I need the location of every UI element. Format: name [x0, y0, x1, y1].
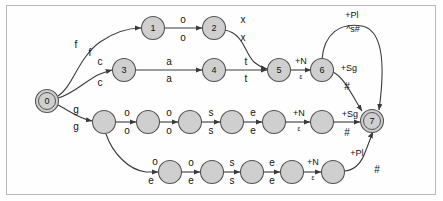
edge-0-3 [58, 70, 112, 98]
transition-input-symbol: t [245, 56, 248, 67]
transition-input-symbol: c [98, 56, 103, 67]
transition-input-symbol: +Pl [345, 10, 358, 20]
transition-label-t-0-1: ff [75, 39, 92, 58]
state-label: 6 [319, 65, 324, 75]
state-circle [137, 111, 160, 134]
state-label: 7 [369, 116, 374, 126]
fst-graph: 01234567 ffooxxccaatt+Nε+Pl^s#+Sg#ggoooo… [0, 0, 443, 201]
transition-label-t-6-7-pl: +Pl^s# [345, 10, 360, 34]
transition-output-symbol: e [250, 125, 256, 136]
state-node-unlabeled[interactable] [241, 161, 264, 184]
state-circle [179, 111, 202, 134]
transition-input-symbol: e [269, 157, 275, 168]
transition-input-symbol: +N [295, 56, 307, 66]
transition-input-symbol: +Pl [350, 148, 363, 158]
state-node-unlabeled[interactable] [201, 161, 224, 184]
transition-output-symbol: ε [300, 73, 303, 80]
transition-input-symbol: f [75, 39, 78, 50]
transition-output-symbol: e [188, 175, 194, 186]
transition-output-symbol: o [166, 125, 172, 136]
transition-input-symbol: o [152, 156, 158, 167]
transition-output-symbol: e [148, 175, 154, 186]
state-node-5[interactable]: 5 [268, 59, 291, 82]
transition-input-symbol: s [209, 107, 214, 118]
transition-output-symbol: f [89, 47, 92, 58]
transition-output-symbol: a [166, 73, 172, 84]
transition-input-symbol: e [250, 107, 256, 118]
state-circle [201, 161, 224, 184]
transition-input-symbol: g [73, 104, 79, 115]
transition-input-symbol: s [230, 157, 235, 168]
state-circle [322, 161, 345, 184]
state-node-unlabeled[interactable] [93, 111, 116, 134]
state-node-unlabeled[interactable] [263, 111, 286, 134]
transition-label-t-r1-s1: oe [148, 156, 158, 186]
edges-layer [58, 25, 382, 172]
state-node-1[interactable]: 1 [142, 17, 165, 40]
state-label: 2 [211, 23, 216, 33]
state-node-unlabeled[interactable] [179, 111, 202, 134]
transition-output-symbol: ^s# [346, 24, 360, 34]
transition-input-symbol: a [166, 56, 172, 67]
transition-input-symbol: o [188, 157, 194, 168]
transition-output-symbol: s [209, 125, 214, 136]
transition-input-symbol: +N [293, 108, 305, 118]
state-node-unlabeled[interactable] [137, 111, 160, 134]
state-node-unlabeled[interactable] [322, 161, 345, 184]
state-circle [241, 161, 264, 184]
transition-output-symbol: # [374, 164, 380, 175]
transition-output-symbol: e [269, 175, 275, 186]
transition-output-symbol: x [241, 32, 246, 43]
transition-output-symbol: t [245, 73, 248, 84]
state-label: 0 [44, 96, 49, 106]
transition-output-symbol: o [180, 32, 186, 43]
transition-input-symbol: o [124, 107, 130, 118]
transition-labels-layer: ffooxxccaatt+Nε+Pl^s#+Sg#ggoooossee+Nε+S… [73, 10, 380, 186]
state-node-0[interactable]: 0 [36, 90, 59, 113]
transition-output-symbol: ε [312, 174, 315, 181]
state-node-3[interactable]: 3 [113, 59, 136, 82]
transition-label-t-0-3: cc [98, 56, 103, 88]
state-label: 3 [121, 65, 126, 75]
state-circle [311, 111, 334, 134]
transition-input-symbol: +N [307, 157, 319, 167]
transition-label-t-5-6: +Nε [295, 56, 307, 80]
transition-output-symbol: s [230, 175, 235, 186]
transition-input-symbol: x [241, 14, 246, 25]
state-label: 4 [211, 65, 216, 75]
transition-output-symbol: g [73, 121, 79, 132]
state-circle [263, 111, 286, 134]
state-node-unlabeled[interactable] [159, 161, 182, 184]
state-circle [281, 161, 304, 184]
transition-label-t-r6-7: +Sg# [342, 109, 358, 138]
transition-input-symbol: o [166, 107, 172, 118]
state-node-4[interactable]: 4 [203, 59, 226, 82]
state-node-2[interactable]: 2 [203, 17, 226, 40]
transition-label-t-s4-s5: +Nε [307, 157, 319, 181]
edge-r1-s1 [106, 134, 158, 172]
state-node-7[interactable]: 7 [361, 110, 384, 133]
state-node-unlabeled[interactable] [311, 111, 334, 134]
transition-input-symbol: o [180, 14, 186, 25]
state-node-unlabeled[interactable] [221, 111, 244, 134]
state-circle [221, 111, 244, 134]
transition-input-symbol: +Sg [342, 109, 358, 119]
nodes-layer: 01234567 [36, 17, 384, 184]
state-node-6[interactable]: 6 [311, 59, 334, 82]
transition-output-symbol: # [344, 127, 350, 138]
state-label: 1 [150, 23, 155, 33]
transition-label-t-0-r1: gg [73, 104, 79, 132]
transition-output-symbol: c [98, 77, 103, 88]
state-circle [159, 161, 182, 184]
transition-output-symbol: # [344, 81, 350, 92]
state-node-unlabeled[interactable] [281, 161, 304, 184]
state-label: 5 [276, 65, 281, 75]
transition-input-symbol: +Sg [341, 63, 357, 73]
transition-output-symbol: ε [298, 125, 301, 132]
transition-label-t-6-7-sg: +Sg# [341, 63, 357, 92]
transition-label-t-r5-r6: +Nε [293, 108, 305, 132]
transition-label-t-2-5: xx [241, 14, 246, 43]
state-circle [93, 111, 116, 134]
fst-diagram-figure: 01234567 ffooxxccaatt+Nε+Pl^s#+Sg#ggoooo… [0, 0, 443, 201]
transition-output-symbol: o [124, 125, 130, 136]
